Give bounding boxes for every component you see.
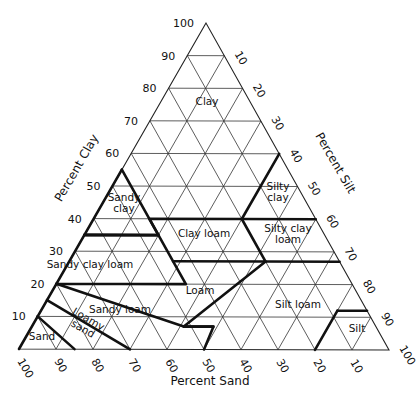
sand-tick-label: 40 bbox=[236, 357, 254, 376]
region-label-sandy-clay-loam: Sandy clay loam bbox=[47, 258, 134, 270]
sand-tick-label: 60 bbox=[162, 356, 180, 375]
clay-tick-label: 70 bbox=[124, 115, 138, 128]
sand-tick-label: 100 bbox=[14, 356, 36, 381]
clay-tick-label: 50 bbox=[87, 180, 101, 193]
silt-tick-label: 80 bbox=[360, 278, 378, 297]
silt-tick-label: 70 bbox=[342, 245, 360, 264]
sand-tick-label: 30 bbox=[273, 357, 291, 376]
region-label-sand: Sand bbox=[29, 330, 55, 342]
soil-texture-triangle: 1020304050607080901001020304050607080901… bbox=[0, 0, 420, 402]
clay-gridline bbox=[75, 251, 334, 252]
sand-tick-label: 50 bbox=[199, 357, 217, 376]
sand-tick-label: 80 bbox=[88, 356, 106, 375]
region-label-silty-clay-loam: Silty clayloam bbox=[264, 222, 312, 245]
class-boundary bbox=[47, 284, 56, 300]
class-boundary bbox=[315, 311, 337, 350]
clay-tick-label: 30 bbox=[49, 245, 63, 258]
clay-tick-label: 90 bbox=[161, 50, 175, 63]
silt-tick-label: 50 bbox=[305, 180, 323, 199]
class-boundary bbox=[38, 300, 47, 316]
region-label-clay: Clay bbox=[196, 95, 219, 107]
silt-tick-label: 90 bbox=[378, 310, 396, 329]
region-label-sandy-loam: Sandy loam bbox=[89, 303, 151, 315]
class-boundary bbox=[173, 219, 266, 262]
clay-tick-label: 10 bbox=[12, 310, 26, 323]
sand-axis-title: Percent Sand bbox=[170, 374, 249, 388]
clay-tick-label: 60 bbox=[105, 147, 119, 160]
silt-tick-label: 40 bbox=[287, 147, 305, 166]
silt-tick-label: 30 bbox=[268, 114, 286, 133]
clay-tick-label: 20 bbox=[30, 278, 44, 291]
region-label-silty-clay: Siltyclay bbox=[267, 180, 290, 203]
clay-tick-label: 100 bbox=[173, 17, 194, 30]
silt-tick-label: 10 bbox=[232, 49, 250, 68]
silt-tick-label: 100 bbox=[396, 343, 418, 368]
clay-tick-label: 40 bbox=[68, 213, 82, 226]
region-label-silt-loam: Silt loam bbox=[275, 298, 321, 310]
region-label-loam: Loam bbox=[186, 284, 215, 296]
region-label-silt: Silt bbox=[349, 322, 366, 334]
region-label-clay-loam: Clay loam bbox=[178, 227, 230, 239]
sand-tick-label: 90 bbox=[51, 356, 69, 375]
sand-tick-label: 10 bbox=[347, 357, 365, 376]
silt-gridline bbox=[204, 187, 298, 350]
sand-tick-label: 70 bbox=[125, 356, 143, 375]
sand-tick-label: 20 bbox=[310, 357, 328, 376]
silt-tick-label: 60 bbox=[323, 212, 341, 231]
clay-axis-title: Percent Clay bbox=[52, 132, 102, 204]
silt-tick-label: 20 bbox=[250, 81, 268, 100]
clay-tick-label: 80 bbox=[143, 82, 157, 95]
